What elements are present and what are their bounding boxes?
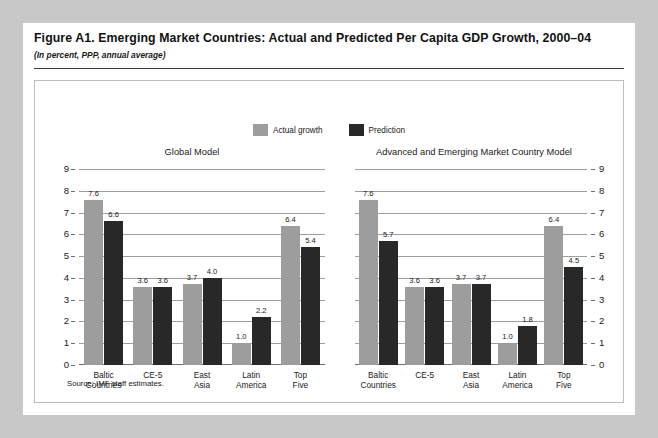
bar-actual[interactable]: 3.6 <box>405 287 424 365</box>
x-axis-category-label: TopFive <box>276 367 325 397</box>
y-axis-tickmark-0 <box>71 365 75 366</box>
bar-group: 3.63.6 <box>128 169 177 365</box>
y-axis-tick-9: 9 <box>64 164 69 174</box>
y-axis-tick-3: 3 <box>599 295 604 305</box>
y-axis-tickmark-4 <box>71 278 75 279</box>
actual-growth-swatch-icon <box>253 124 268 136</box>
bar-value-label: 7.6 <box>88 189 99 198</box>
bar-value-label: 3.6 <box>409 276 420 285</box>
bar-value-label: 4.5 <box>569 256 580 265</box>
y-axis-tick-5: 5 <box>64 251 69 261</box>
bar-group: 7.65.7 <box>355 169 401 365</box>
y-axis-tick-5: 5 <box>599 251 604 261</box>
bar-value-label: 4.0 <box>207 267 218 276</box>
bar-value-label: 1.0 <box>502 332 513 341</box>
bar-prediction[interactable]: 6.6 <box>104 221 123 365</box>
y-axis-tickmark-7 <box>71 213 75 214</box>
x-axis-category-label: TopFive <box>541 367 587 397</box>
bar-value-label: 5.4 <box>305 236 316 245</box>
chart-legend: Actual growth Prediction <box>35 124 623 136</box>
bar-value-label: 3.7 <box>456 273 467 282</box>
bar-actual[interactable]: 3.6 <box>133 287 152 365</box>
bar-prediction[interactable]: 3.6 <box>153 287 172 365</box>
bar-prediction[interactable]: 1.8 <box>518 326 537 365</box>
bar-prediction[interactable]: 5.4 <box>301 247 320 365</box>
y-axis-tick-6: 6 <box>64 230 69 240</box>
y-axis-left: 0123456789 <box>53 169 75 365</box>
y-axis-tickmark-1 <box>71 343 75 344</box>
bar-group: 6.45.4 <box>276 169 325 365</box>
bar-actual[interactable]: 7.6 <box>84 200 103 366</box>
bar-value-label: 6.4 <box>285 215 296 224</box>
legend-item-actual-growth: Actual growth <box>253 124 323 136</box>
bar-value-label: 3.7 <box>476 273 487 282</box>
bar-actual[interactable]: 7.6 <box>359 200 378 366</box>
x-axis-category-label: EastAsia <box>177 367 226 397</box>
y-axis-tickmark-5 <box>591 256 595 257</box>
panel-title-advanced-emerging-model: Advanced and Emerging Market Country Mod… <box>335 147 613 157</box>
bar-group: 3.73.7 <box>448 169 494 365</box>
bar-group: 6.44.5 <box>541 169 587 365</box>
plot-area-advanced-emerging-model: 7.65.73.63.63.73.71.01.86.44.5 <box>355 169 587 365</box>
x-axis-category-label: CE-5 <box>401 367 447 397</box>
y-axis-tick-2: 2 <box>599 317 604 327</box>
legend-label-prediction: Prediction <box>369 126 405 135</box>
y-axis-tick-7: 7 <box>599 208 604 218</box>
page-title: Figure A1. Emerging Market Countries: Ac… <box>34 31 591 45</box>
bar-value-label: 6.4 <box>549 215 560 224</box>
chart-container: Actual growth Prediction Global Model 01… <box>34 80 624 403</box>
bar-value-label: 3.6 <box>158 276 169 285</box>
bar-actual[interactable]: 6.4 <box>544 226 563 365</box>
bar-actual[interactable]: 1.0 <box>232 343 251 365</box>
y-axis-tickmark-8 <box>71 191 75 192</box>
x-axis-category-label: LatinAmerica <box>227 367 276 397</box>
bar-group: 3.63.6 <box>401 169 447 365</box>
y-axis-tick-4: 4 <box>64 273 69 283</box>
bar-prediction[interactable]: 3.7 <box>472 284 491 365</box>
source-note: Source: IMF staff estimates. <box>67 379 164 388</box>
bar-group: 1.02.2 <box>227 169 276 365</box>
legend-item-prediction: Prediction <box>349 124 405 136</box>
bar-actual[interactable]: 3.7 <box>183 284 202 365</box>
y-axis-tickmark-6 <box>591 234 595 235</box>
y-axis-tickmark-4 <box>591 278 595 279</box>
y-axis-tickmark-2 <box>591 321 595 322</box>
panel-title-global-model: Global Model <box>53 147 331 157</box>
y-axis-tickmark-9 <box>71 169 75 170</box>
bar-prediction[interactable]: 4.5 <box>564 267 583 365</box>
y-axis-tick-4: 4 <box>599 273 604 283</box>
bar-actual[interactable]: 3.7 <box>452 284 471 365</box>
title-divider <box>34 68 624 69</box>
legend-label-actual-growth: Actual growth <box>273 126 323 135</box>
y-axis-tick-0: 0 <box>64 360 69 370</box>
bar-prediction[interactable]: 3.6 <box>425 287 444 365</box>
bar-prediction[interactable]: 2.2 <box>252 317 271 365</box>
y-axis-tickmark-9 <box>591 169 595 170</box>
y-axis-tickmark-1 <box>591 343 595 344</box>
y-axis-tick-7: 7 <box>64 208 69 218</box>
bar-groups-advanced-emerging-model: 7.65.73.63.63.73.71.01.86.44.5 <box>355 169 587 365</box>
y-axis-tick-8: 8 <box>599 186 604 196</box>
y-axis-tickmark-7 <box>591 213 595 214</box>
bar-value-label: 2.2 <box>256 306 267 315</box>
bar-prediction[interactable]: 4.0 <box>203 278 222 365</box>
bar-actual[interactable]: 6.4 <box>281 226 300 365</box>
x-axis-categories-advanced-emerging-model: BalticCountriesCE-5EastAsiaLatinAmericaT… <box>355 367 587 397</box>
y-axis-tickmark-2 <box>71 321 75 322</box>
bar-value-label: 3.6 <box>429 276 440 285</box>
y-axis-tick-1: 1 <box>599 338 604 348</box>
bar-prediction[interactable]: 5.7 <box>379 241 398 365</box>
y-axis-tickmark-6 <box>71 234 75 235</box>
y-axis-tick-0: 0 <box>599 360 604 370</box>
y-axis-tick-2: 2 <box>64 317 69 327</box>
y-axis-tick-1: 1 <box>64 338 69 348</box>
y-axis-tickmark-5 <box>71 256 75 257</box>
y-axis-tick-8: 8 <box>64 186 69 196</box>
bar-actual[interactable]: 1.0 <box>498 343 517 365</box>
bar-value-label: 1.0 <box>236 332 247 341</box>
bar-value-label: 7.6 <box>363 189 374 198</box>
bar-group: 1.01.8 <box>494 169 540 365</box>
y-axis-tickmark-8 <box>591 191 595 192</box>
bar-group: 3.74.0 <box>177 169 226 365</box>
bar-groups-global-model: 7.66.63.63.63.74.01.02.26.45.4 <box>79 169 325 365</box>
